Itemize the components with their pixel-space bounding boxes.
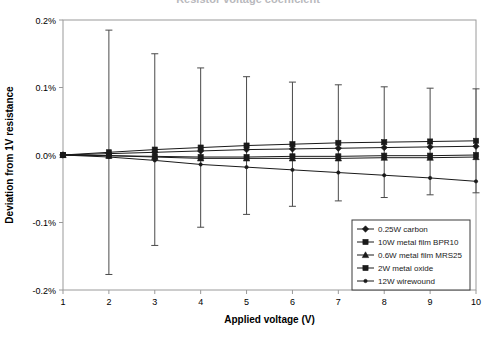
x-tick-label: 1 [60, 297, 65, 307]
marker-square [428, 153, 433, 158]
marker-dot [245, 165, 248, 168]
legend-label: 12W wirewound [378, 277, 435, 286]
marker-dot [199, 163, 202, 166]
marker-dot [291, 168, 294, 171]
chart-title-text: Resistor voltage coefficient [0, 0, 496, 5]
legend-label: 0.6W metal film MRS25 [378, 251, 463, 260]
chart-container: Resistor voltage coefficient 0.2%0.1%0.0… [0, 0, 496, 337]
x-tick-label: 9 [428, 297, 433, 307]
y-tick-label: 0.2% [35, 16, 56, 26]
y-axis-title: Deviation from 1V resistance [4, 86, 15, 224]
y-tick-label: -0.2% [32, 286, 56, 296]
marker-square [198, 145, 203, 150]
marker-dot [153, 159, 156, 162]
marker-square [336, 154, 341, 159]
x-tick-label: 2 [106, 297, 111, 307]
marker-square [473, 138, 478, 143]
x-tick-label: 10 [471, 297, 481, 307]
y-tick-label: 0.0% [35, 151, 56, 161]
marker-square [244, 154, 249, 159]
marker-square [428, 139, 433, 144]
marker-square [473, 152, 478, 157]
chart-legend: 0.25W carbon10W metal film BPR100.6W met… [352, 220, 470, 290]
marker-square [290, 154, 295, 159]
x-axis-title: Applied voltage (V) [224, 314, 315, 325]
chart-svg: 0.2%0.1%0.0%-0.1%-0.2%12345678910Applied… [0, 0, 496, 337]
marker-dot [61, 153, 64, 156]
legend-label: 10W metal film BPR10 [378, 238, 459, 247]
marker-square [244, 143, 249, 148]
legend-label: 0.25W carbon [378, 225, 428, 234]
marker-dot [383, 174, 386, 177]
marker-dot [428, 176, 431, 179]
marker-square [382, 153, 387, 158]
marker-square [152, 154, 157, 159]
marker-square [363, 265, 368, 270]
x-tick-label: 5 [244, 297, 249, 307]
marker-square [363, 239, 368, 244]
x-tick-label: 8 [382, 297, 387, 307]
marker-dot [107, 155, 110, 158]
marker-dot [364, 279, 367, 282]
marker-square [290, 142, 295, 147]
chart-title-clipped: Resistor voltage coefficient [0, 0, 496, 7]
x-tick-label: 6 [290, 297, 295, 307]
x-tick-label: 4 [198, 297, 203, 307]
marker-square [382, 140, 387, 145]
marker-square [152, 147, 157, 152]
x-tick-label: 3 [152, 297, 157, 307]
legend-label: 2W metal oxide [378, 264, 434, 273]
marker-square [198, 154, 203, 159]
marker-square [336, 140, 341, 145]
y-tick-label: 0.1% [35, 83, 56, 93]
marker-dot [474, 180, 477, 183]
marker-dot [337, 171, 340, 174]
y-tick-label: -0.1% [32, 218, 56, 228]
x-tick-label: 7 [336, 297, 341, 307]
